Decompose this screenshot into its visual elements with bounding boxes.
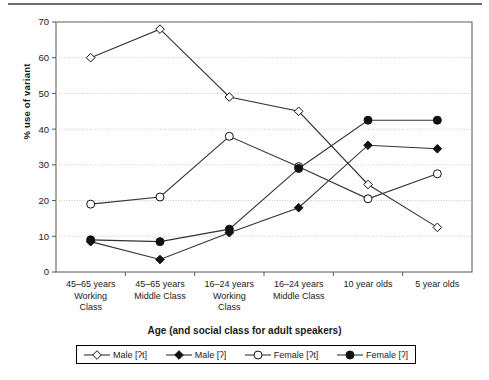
legend-marker-open-circle-icon (245, 349, 271, 361)
legend-item-1: Male [ʔ] (166, 349, 227, 361)
data-point-legend-0 (93, 350, 102, 359)
x-category-label-4: 10 year olds (329, 279, 406, 291)
data-point-Female-0 (87, 236, 95, 244)
x-category-label-5-line-0: 5 year olds (399, 279, 476, 291)
y-tick-label-30: 30 (38, 159, 49, 170)
x-category-label-3-line-1: Middle Class (260, 291, 337, 303)
x-category-label-0-line-0: 45–65 years (52, 279, 129, 291)
legend-item-3: Female [ʔ] (337, 349, 408, 361)
line-chart: 010203040506070 (0, 8, 489, 280)
x-category-label-5: 5 year olds (399, 279, 476, 291)
figure-container: % use of variant 010203040506070 45–65 y… (0, 0, 489, 380)
legend-label-0: Male [ʔt] (113, 350, 147, 360)
x-category-label-0: 45–65 yearsWorkingClass (52, 279, 129, 314)
data-point-Femalet-5 (433, 170, 441, 178)
y-tick-label-20: 20 (38, 195, 49, 206)
top-divider-rule (8, 3, 482, 5)
data-point-Female-5 (433, 116, 441, 124)
legend-label-2: Female [ʔt] (274, 350, 319, 360)
data-point-Femalet-4 (364, 195, 372, 203)
chart-legend: Male [ʔt]Male [ʔ]Female [ʔt]Female [ʔ] (76, 345, 416, 364)
data-point-legend-3 (346, 351, 354, 359)
x-category-label-3: 16–24 yearsMiddle Class (260, 279, 337, 302)
data-point-legend-1 (174, 350, 183, 359)
x-category-label-1-line-1: Middle Class (121, 291, 198, 303)
legend-marker-filled-circle-icon (337, 349, 363, 361)
y-tick-label-40: 40 (38, 124, 49, 135)
y-tick-label-70: 70 (38, 16, 49, 27)
x-category-label-2-line-0: 16–24 years (191, 279, 268, 291)
x-category-label-2: 16–24 yearsWorkingClass (191, 279, 268, 314)
legend-label-3: Female [ʔ] (366, 350, 408, 360)
x-axis-title: Age (and social class for adult speakers… (0, 325, 489, 336)
data-point-Female-1 (156, 238, 164, 246)
x-category-label-1: 45–65 yearsMiddle Class (121, 279, 198, 302)
legend-marker-filled-diamond-icon (166, 349, 192, 361)
legend-item-0: Male [ʔt] (84, 349, 147, 361)
legend-marker-open-diamond-icon (84, 349, 110, 361)
data-point-Femalet-1 (156, 193, 164, 201)
y-tick-label-10: 10 (38, 231, 49, 242)
data-point-legend-2 (254, 351, 262, 359)
data-point-Female-4 (364, 116, 372, 124)
y-axis-title: % use of variant (21, 32, 32, 172)
data-point-Female-2 (225, 225, 233, 233)
x-category-label-4-line-0: 10 year olds (329, 279, 406, 291)
x-category-label-2-line-1: Working (191, 291, 268, 303)
legend-label-1: Male [ʔ] (195, 350, 227, 360)
y-tick-label-50: 50 (38, 88, 49, 99)
data-point-Femalet-2 (225, 132, 233, 140)
data-point-Femalet-0 (87, 200, 95, 208)
y-tick-label-60: 60 (38, 52, 49, 63)
x-category-label-1-line-0: 45–65 years (121, 279, 198, 291)
y-tick-label-0: 0 (44, 266, 49, 277)
legend-item-2: Female [ʔt] (245, 349, 319, 361)
x-category-label-2-line-2: Class (191, 302, 268, 314)
data-point-Female-3 (295, 164, 303, 172)
x-category-label-0-line-1: Working (52, 291, 129, 303)
x-category-label-0-line-2: Class (52, 302, 129, 314)
x-category-label-3-line-0: 16–24 years (260, 279, 337, 291)
plot-area-wrapper: % use of variant 010203040506070 (0, 8, 489, 280)
